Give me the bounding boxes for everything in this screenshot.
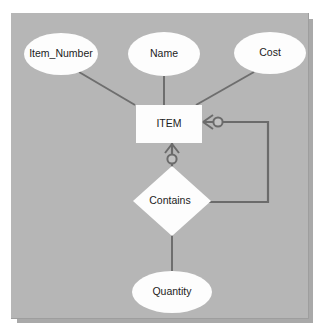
crowfoot-icon-right (203, 115, 214, 129)
er-diagram-svg: Item_Number Name Cost ITEM Contains Quan… (0, 0, 324, 335)
er-diagram-canvas: Item_Number Name Cost ITEM Contains Quan… (0, 0, 324, 335)
quantity-label: Quantity (152, 285, 192, 297)
name-label: Name (150, 47, 178, 59)
entity-node-item[interactable]: ITEM (136, 105, 202, 143)
relationship-line-item-contains-routed (205, 122, 268, 202)
item-number-label: Item_Number (29, 47, 93, 59)
contains-label: Contains (149, 194, 190, 206)
crowfoot-icon-bottom (165, 144, 179, 155)
attribute-node-cost[interactable]: Cost (234, 32, 306, 74)
attribute-node-quantity[interactable]: Quantity (132, 271, 212, 313)
connector-cost-to-item (196, 72, 254, 105)
optional-circle-icon-bottom (167, 154, 176, 163)
attribute-node-name[interactable]: Name (128, 32, 200, 76)
cardinality-zero-or-many-item-bottom (165, 144, 179, 164)
attribute-node-item-number[interactable]: Item_Number (24, 33, 98, 75)
cost-label: Cost (259, 46, 281, 58)
item-label: ITEM (156, 117, 181, 129)
optional-circle-icon-right (213, 117, 222, 126)
relationship-node-contains[interactable]: Contains (133, 166, 211, 236)
connector-item-number-to-item (79, 72, 135, 105)
cardinality-zero-or-many-item-right (203, 115, 223, 129)
